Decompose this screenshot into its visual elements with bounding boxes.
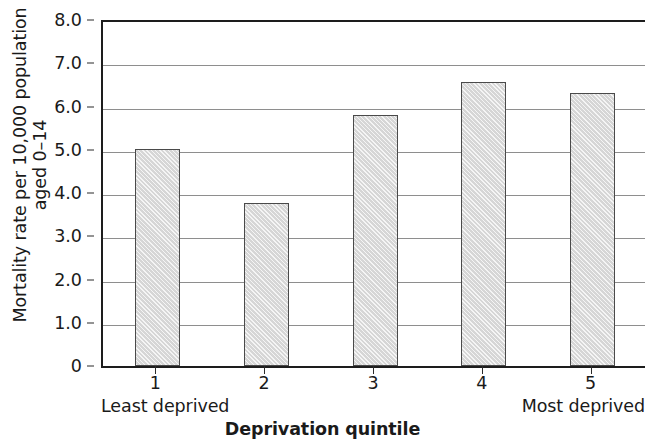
bar: [461, 82, 506, 366]
y-axis-tick-labels: 01.02.03.04.05.06.07.08.0: [0, 0, 94, 431]
y-tick-mark: [87, 149, 94, 150]
x-tick-label: 1: [150, 373, 161, 393]
bar: [570, 93, 615, 366]
y-tick-label: 2.0: [54, 270, 82, 290]
x-tick-label: 3: [367, 373, 378, 393]
x-axis-title: Deprivation quintile: [0, 419, 645, 439]
bar: [135, 149, 180, 366]
x-tick-label: 2: [259, 373, 270, 393]
y-tick-label: 8.0: [54, 10, 82, 30]
x-tick-label: 5: [585, 373, 596, 393]
y-tick-mark: [87, 193, 94, 194]
y-tick-label: 1.0: [54, 313, 82, 333]
y-tick-label: 7.0: [54, 53, 82, 73]
bars-group: [103, 22, 645, 366]
y-tick-label: 0: [71, 356, 82, 376]
y-tick-label: 5.0: [54, 140, 82, 160]
y-tick-label: 4.0: [54, 183, 82, 203]
y-tick-mark: [87, 236, 94, 237]
y-tick-mark: [87, 322, 94, 323]
y-tick-label: 6.0: [54, 97, 82, 117]
y-tick-mark: [87, 63, 94, 64]
y-tick-mark: [87, 366, 94, 367]
x-tick-label: 4: [476, 373, 487, 393]
y-tick-label: 3.0: [54, 226, 82, 246]
bar: [353, 115, 398, 366]
least-deprived-label: Least deprived: [101, 396, 229, 416]
y-tick-mark: [87, 279, 94, 280]
y-tick-mark: [87, 106, 94, 107]
bar: [244, 203, 289, 366]
plot-area: [101, 20, 645, 366]
y-tick-mark: [87, 20, 94, 21]
most-deprived-label: Most deprived: [522, 396, 645, 416]
